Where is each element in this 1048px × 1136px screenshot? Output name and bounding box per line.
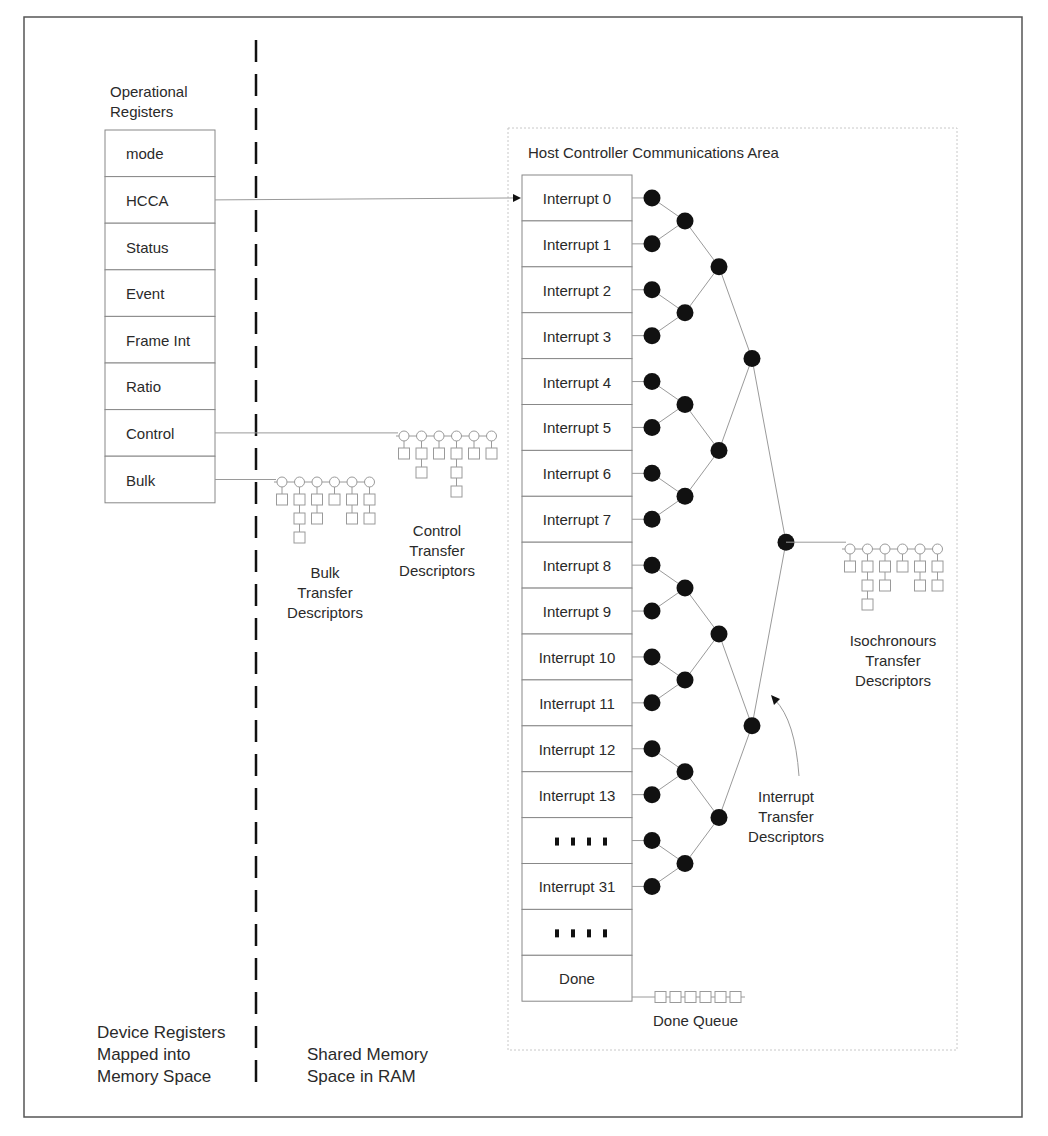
transfer-descriptor-icon <box>277 494 288 505</box>
register-mode: mode <box>126 145 164 162</box>
ed-node-icon <box>677 580 694 597</box>
ed-node-icon <box>644 786 661 803</box>
arrow-head-icon <box>513 194 521 202</box>
tree-edge <box>685 634 719 680</box>
hcca-interrupt-4: Interrupt 4 <box>543 374 611 391</box>
transfer-descriptor-icon <box>469 448 480 459</box>
interrupt-label-line: Transfer <box>758 808 813 825</box>
bulk-transfer-descriptors: BulkTransferDescriptors <box>274 477 375 621</box>
hcca-table: Interrupt 0Interrupt 1Interrupt 2Interru… <box>522 175 632 1001</box>
done-td-icon <box>730 992 741 1003</box>
register-status: Status <box>126 239 169 256</box>
ed-node-icon <box>711 442 728 459</box>
tree-edge <box>752 542 786 726</box>
usb-ohci-diagram: OperationalRegisters modeHCCAStatusEvent… <box>0 0 1048 1136</box>
transfer-descriptor-icon <box>312 513 323 524</box>
transfer-descriptor-icon <box>364 513 375 524</box>
ed-node-icon <box>744 350 761 367</box>
transfer-descriptor-icon <box>897 561 908 572</box>
hcca-interrupt-1: Interrupt 1 <box>543 236 611 253</box>
endpoint-descriptor-icon <box>863 544 873 554</box>
transfer-descriptor-icon <box>434 448 445 459</box>
hcca-interrupt-5: Interrupt 5 <box>543 419 611 436</box>
register-frame-int: Frame Int <box>126 332 191 349</box>
hcca-interrupt-2: Interrupt 2 <box>543 282 611 299</box>
hcca-interrupt-6: Interrupt 6 <box>543 465 611 482</box>
interrupt-label-line: Interrupt <box>758 788 815 805</box>
done-td-icon <box>685 992 696 1003</box>
done-td-icon <box>670 992 681 1003</box>
ellipsis-dot <box>587 929 591 937</box>
tree-edge <box>685 818 719 864</box>
hcca-row <box>522 909 632 955</box>
ed-node-icon <box>644 465 661 482</box>
endpoint-descriptor-icon <box>399 431 409 441</box>
endpoint-descriptor-icon <box>915 544 925 554</box>
transfer-descriptor-icon <box>294 532 305 543</box>
transfer-descriptor-icon <box>915 561 926 572</box>
ed-node-icon <box>644 373 661 390</box>
transfer-descriptor-icon <box>312 494 323 505</box>
ed-node-icon <box>644 419 661 436</box>
ed-node-icon <box>711 809 728 826</box>
ellipsis-dot <box>571 929 575 937</box>
descriptor-label-line: Bulk <box>310 564 340 581</box>
tree-edge <box>719 359 752 451</box>
transfer-descriptor-icon <box>915 580 926 591</box>
hcca-interrupt-0: Interrupt 0 <box>543 190 611 207</box>
descriptor-label-line: Descriptors <box>399 562 475 579</box>
ellipsis-dot <box>603 929 607 937</box>
transfer-descriptor-icon <box>347 513 358 524</box>
ed-node-icon <box>644 740 661 757</box>
ed-node-icon <box>644 603 661 620</box>
ed-node-icon <box>677 304 694 321</box>
ellipsis-dot <box>603 838 607 846</box>
tree-edge <box>685 405 719 451</box>
ed-node-icon <box>644 832 661 849</box>
ed-node-icon <box>677 396 694 413</box>
operational-registers-title-line: Registers <box>110 103 173 120</box>
transfer-descriptor-icon <box>451 486 462 497</box>
tree-edge <box>719 267 752 359</box>
hcca-interrupt-7: Interrupt 7 <box>543 511 611 528</box>
endpoint-descriptor-icon <box>487 431 497 441</box>
descriptor-label-line: Descriptors <box>287 604 363 621</box>
ed-node-icon <box>744 717 761 734</box>
ellipsis-dot <box>571 838 575 846</box>
footer-labels: Device RegistersMapped intoMemory SpaceS… <box>97 1023 428 1086</box>
endpoint-descriptor-icon <box>880 544 890 554</box>
tree-edge <box>719 634 752 726</box>
endpoint-descriptor-icon <box>365 477 375 487</box>
tree-edge <box>685 450 719 496</box>
tree-edge <box>685 221 719 267</box>
endpoint-descriptor-icon <box>330 477 340 487</box>
endpoint-descriptor-icon <box>898 544 908 554</box>
hcca-interrupt-13: Interrupt 13 <box>539 787 616 804</box>
footer-right-line: Space in RAM <box>307 1067 416 1086</box>
hcca-interrupt-12: Interrupt 12 <box>539 741 616 758</box>
transfer-descriptor-icon <box>416 467 427 478</box>
ed-node-icon <box>677 212 694 229</box>
ed-node-icon <box>644 281 661 298</box>
hcca-interrupt-3: Interrupt 3 <box>543 328 611 345</box>
hcca-interrupt-10: Interrupt 10 <box>539 649 616 666</box>
endpoint-descriptor-icon <box>312 477 322 487</box>
footer-left-line: Mapped into <box>97 1045 191 1064</box>
register-row <box>105 456 215 503</box>
interrupt-transfer-descriptors-label: InterruptTransferDescriptors <box>748 695 824 845</box>
hcca-interrupt-31: Interrupt 31 <box>539 878 616 895</box>
tree-edge <box>719 726 752 818</box>
endpoint-descriptor-icon <box>434 431 444 441</box>
ed-node-icon <box>644 189 661 206</box>
transfer-descriptor-icon <box>862 599 873 610</box>
register-event: Event <box>126 285 165 302</box>
ed-node-icon <box>644 878 661 895</box>
endpoint-descriptor-icon <box>417 431 427 441</box>
endpoint-descriptor-icon <box>295 477 305 487</box>
endpoint-descriptor-icon <box>277 477 287 487</box>
ed-node-icon <box>711 258 728 275</box>
ed-node-icon <box>677 855 694 872</box>
descriptor-label-line: Transfer <box>409 542 464 559</box>
footer-right-line: Shared Memory <box>307 1045 428 1064</box>
transfer-descriptor-icon <box>862 580 873 591</box>
